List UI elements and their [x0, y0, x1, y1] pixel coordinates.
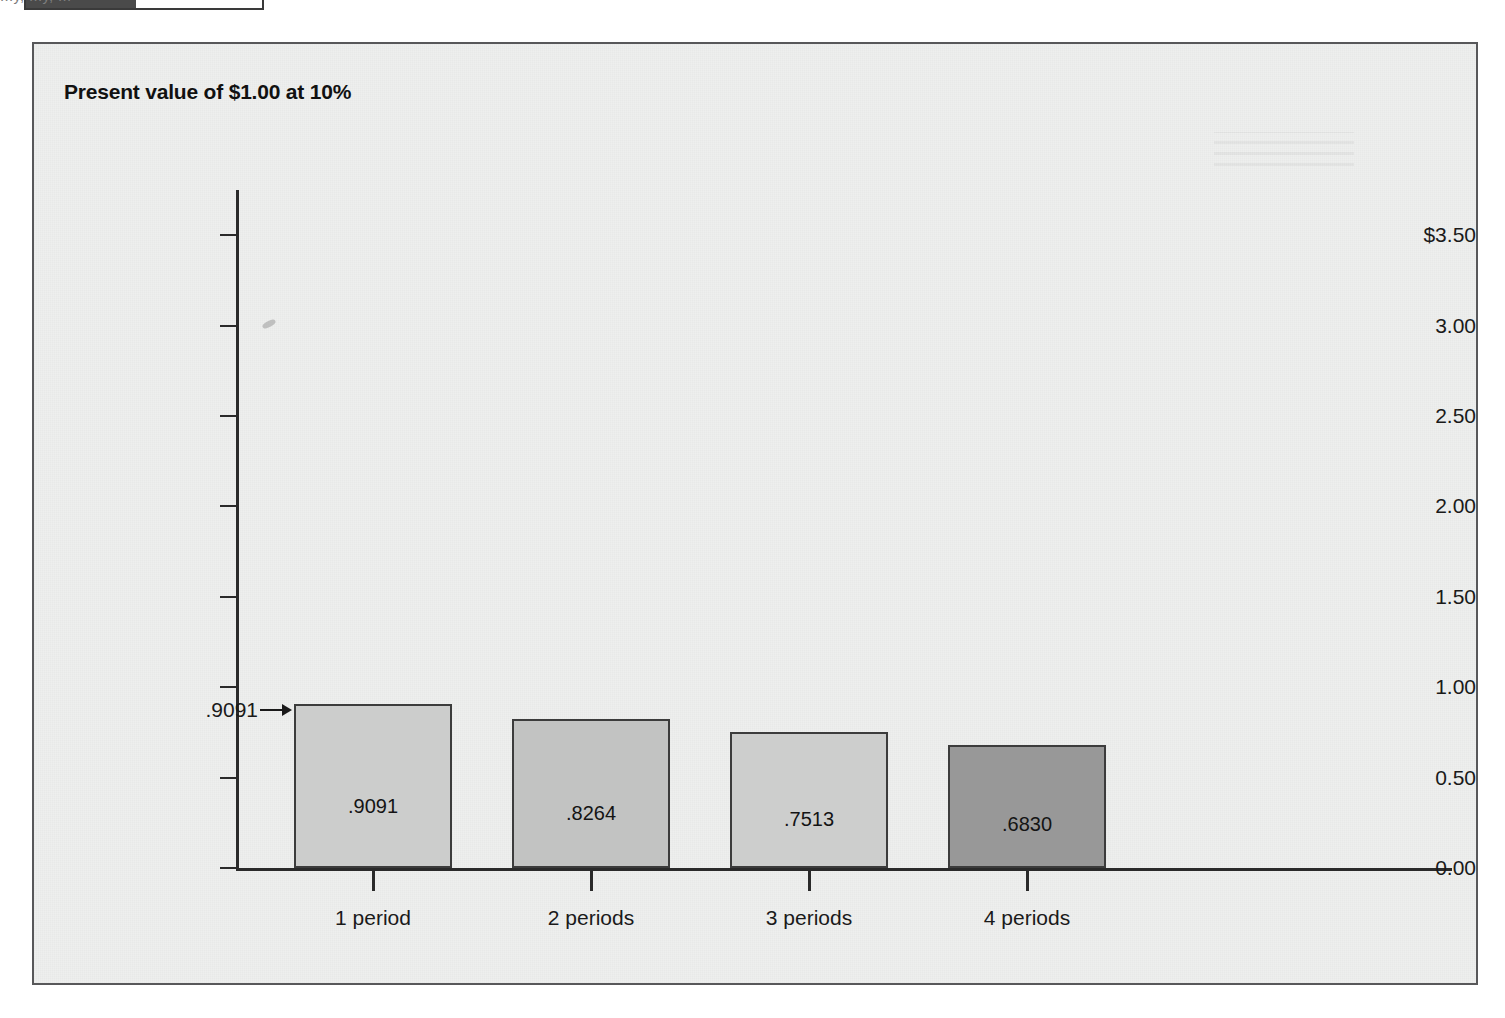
- cropped-caption-text: ...y, ...y, ...: [0, 0, 71, 4]
- y-axis-tick: [220, 325, 238, 327]
- cropped-page-header: ...y, ...y, ...: [0, 0, 1505, 30]
- y-axis-tick: [220, 415, 238, 417]
- y-axis-tick: [220, 686, 238, 688]
- x-axis-label: 4 periods: [984, 906, 1070, 930]
- x-axis-tick: [590, 871, 593, 891]
- y-axis-tick-label: 2.00: [1300, 494, 1476, 518]
- chart-frame: Present value of $1.00 at 10% 0.000.501.…: [32, 42, 1478, 985]
- right-arrow-icon: [260, 704, 294, 716]
- bar-value-label: .9091: [296, 795, 450, 818]
- y-axis-tick: [220, 505, 238, 507]
- y-axis-tick-label: 0.00: [1300, 856, 1476, 880]
- y-axis-tick: [220, 234, 238, 236]
- y-axis-tick-label: 2.50: [1300, 404, 1476, 428]
- y-axis-tick-label: 0.50: [1300, 766, 1476, 790]
- x-axis-tick: [1026, 871, 1029, 891]
- y-axis-tick-label: 1.00: [1300, 675, 1476, 699]
- bar-value-label: .8264: [514, 802, 668, 825]
- bar-value-label: .7513: [732, 808, 886, 831]
- y-axis-tick-label: $3.50: [1300, 223, 1476, 247]
- plot-area: 0.000.501.001.502.002.503.00$3.50 .9091.…: [34, 44, 1476, 983]
- stray-pencil-mark: [261, 318, 276, 330]
- legend-swatch-light: [136, 0, 262, 8]
- bar: .8264: [512, 719, 670, 868]
- bar-value-label: .6830: [950, 813, 1104, 836]
- x-axis-tick: [808, 871, 811, 891]
- bar: .7513: [730, 732, 888, 868]
- y-axis-tick-label: 3.00: [1300, 314, 1476, 338]
- x-axis-tick: [372, 871, 375, 891]
- y-axis-line: [236, 190, 239, 870]
- callout-label: .9091: [205, 698, 258, 722]
- bar: .6830: [948, 745, 1106, 868]
- y-axis-tick: [220, 596, 238, 598]
- y-axis-tick: [220, 777, 238, 779]
- x-axis-label: 1 period: [335, 906, 411, 930]
- y-axis-tick: [220, 867, 238, 869]
- value-callout: .9091: [34, 698, 294, 722]
- x-axis-label: 3 periods: [766, 906, 852, 930]
- y-axis-tick-label: 1.50: [1300, 585, 1476, 609]
- x-axis-line: [236, 868, 1452, 871]
- x-axis-label: 2 periods: [548, 906, 634, 930]
- bar: .9091: [294, 704, 452, 868]
